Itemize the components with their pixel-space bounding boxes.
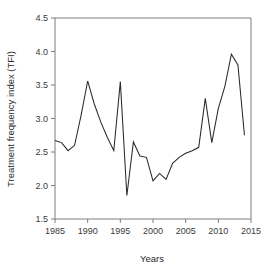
y-tick-label: 4.0: [35, 47, 48, 57]
plot-frame: [55, 18, 251, 219]
x-tick-label: 2010: [208, 226, 228, 236]
x-tick-label: 1990: [78, 226, 98, 236]
x-tick-label: 2005: [176, 226, 196, 236]
x-tick-label: 1985: [45, 226, 65, 236]
line-chart: 1985199019952000200520102015 1.52.02.53.…: [0, 0, 275, 267]
x-axis-label: Years: [140, 253, 164, 264]
y-axis-tick-labels: 1.52.02.53.03.54.04.5: [35, 13, 48, 224]
y-tick-label: 2.5: [35, 147, 48, 157]
y-tick-label: 3.5: [35, 80, 48, 90]
x-axis-tick-labels: 1985199019952000200520102015: [45, 226, 261, 236]
y-axis-label: Treatment frequency index (TFI): [5, 51, 16, 187]
x-axis-ticks: [55, 219, 251, 223]
x-tick-label: 2000: [143, 226, 163, 236]
y-axis-ticks: [51, 18, 55, 219]
y-tick-label: 3.0: [35, 114, 48, 124]
x-tick-label: 1995: [110, 226, 130, 236]
y-tick-label: 2.0: [35, 181, 48, 191]
axis-frame: [55, 18, 251, 219]
data-series-line: [55, 54, 244, 195]
x-tick-label: 2015: [241, 226, 261, 236]
chart-figure: 1985199019952000200520102015 1.52.02.53.…: [0, 0, 275, 267]
y-tick-label: 4.5: [35, 13, 48, 23]
y-tick-label: 1.5: [35, 214, 48, 224]
